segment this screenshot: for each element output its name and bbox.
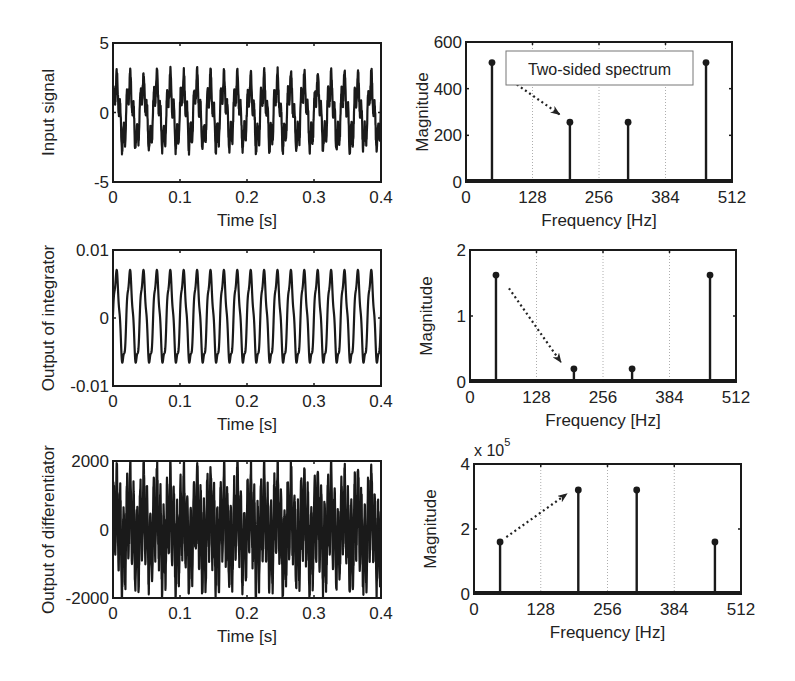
y-tick-label: 200 — [434, 126, 462, 145]
x-tick-label: 0.1 — [168, 188, 192, 207]
stem-marker — [629, 365, 636, 372]
exponent-power: 5 — [504, 436, 510, 448]
y-exponent-label: x 105 — [474, 436, 510, 459]
stem-marker — [567, 119, 574, 126]
y-tick-label: 2000 — [71, 452, 109, 471]
x-tick-label: 384 — [651, 188, 679, 207]
y-tick-label: 5 — [100, 34, 109, 53]
annotation-arrow — [509, 288, 561, 362]
panel-integrator-spectrum: 0128256384512012Frequency [Hz]Magnitude — [417, 241, 750, 430]
stem-marker — [497, 539, 504, 546]
y-tick-label: 0 — [461, 585, 470, 604]
x-tick-label: 0 — [465, 388, 474, 407]
axes-frame — [474, 464, 741, 594]
x-tick-label: 512 — [727, 600, 755, 619]
y-tick-label: 2 — [457, 241, 466, 260]
x-axis-label: Time [s] — [217, 415, 277, 434]
x-tick-label: 0.2 — [235, 188, 259, 207]
y-axis-label: Magnitude — [413, 72, 432, 151]
x-axis-label: Frequency [Hz] — [541, 211, 656, 230]
y-tick-label: 4 — [461, 455, 470, 474]
x-tick-label: 512 — [718, 188, 746, 207]
y-tick-label: 600 — [434, 33, 462, 52]
x-tick-label: 256 — [593, 600, 621, 619]
y-axis-label: Magnitude — [421, 489, 440, 568]
y-axis-label: Output of integrator — [39, 244, 58, 391]
y-tick-label: 400 — [434, 80, 462, 99]
x-tick-label: 0.3 — [302, 188, 326, 207]
x-tick-label: 0 — [108, 188, 117, 207]
y-axis-label: Magnitude — [417, 276, 436, 355]
x-tick-label: 0.4 — [369, 392, 393, 411]
exponent-base: x 10 — [474, 442, 504, 459]
x-tick-label: 256 — [585, 188, 613, 207]
stem-marker — [707, 272, 714, 279]
y-tick-label: 2 — [461, 520, 470, 539]
figure: 00.10.20.30.4-505Time [s]Input signalTwo… — [0, 0, 795, 681]
panel-differentiator-spectrum: 0128256384512024Frequency [Hz]Magnitudex… — [421, 436, 755, 642]
y-tick-label: 0 — [100, 104, 109, 123]
signal-line — [113, 270, 381, 363]
x-tick-label: 0.1 — [168, 392, 192, 411]
y-axis-label: Output of differentiator — [39, 445, 58, 614]
y-tick-label: 0 — [453, 173, 462, 192]
panel-input-time: 00.10.20.30.4-505Time [s]Input signal — [39, 34, 393, 230]
panel-integrator-time: 00.10.20.30.4-0.0100.01Time [s]Output of… — [39, 241, 393, 434]
x-axis-label: Frequency [Hz] — [550, 623, 665, 642]
y-tick-label: -2000 — [66, 589, 109, 608]
x-axis-label: Time [s] — [217, 627, 277, 646]
x-tick-label: 512 — [722, 388, 750, 407]
y-tick-label: 0 — [100, 309, 109, 328]
x-tick-label: 0 — [461, 188, 470, 207]
x-tick-label: 0 — [108, 392, 117, 411]
x-tick-label: 128 — [527, 600, 555, 619]
figure-canvas: 00.10.20.30.4-505Time [s]Input signalTwo… — [0, 0, 795, 681]
x-tick-label: 0.4 — [369, 604, 393, 623]
x-tick-label: 0.2 — [235, 392, 259, 411]
x-tick-label: 384 — [655, 388, 683, 407]
panel-input-spectrum: Two-sided spectrum0128256384512020040060… — [413, 33, 746, 230]
x-tick-label: 0.3 — [302, 392, 326, 411]
x-tick-label: 0.2 — [235, 604, 259, 623]
signal-line — [113, 67, 381, 155]
stem-marker — [633, 487, 640, 494]
x-tick-label: 256 — [589, 388, 617, 407]
x-tick-label: 0 — [108, 604, 117, 623]
y-tick-label: 0 — [100, 521, 109, 540]
stem-marker — [712, 539, 719, 546]
stem-marker — [571, 365, 578, 372]
stem-marker — [575, 487, 582, 494]
stem-marker — [625, 119, 632, 126]
x-axis-label: Time [s] — [217, 211, 277, 230]
x-tick-label: 0 — [469, 600, 478, 619]
stem-marker — [489, 59, 496, 66]
x-tick-label: 0.1 — [168, 604, 192, 623]
annotation-text: Two-sided spectrum — [528, 61, 671, 78]
y-tick-label: 0.01 — [76, 241, 109, 260]
signal-line — [113, 455, 381, 600]
annotation-arrow — [506, 494, 566, 537]
x-tick-label: 384 — [660, 600, 688, 619]
x-tick-label: 0.4 — [369, 188, 393, 207]
stem-marker — [493, 272, 500, 279]
annotation-arrow — [513, 82, 560, 115]
y-tick-label: -5 — [94, 173, 109, 192]
y-tick-label: 1 — [457, 307, 466, 326]
y-axis-label: Input signal — [39, 69, 58, 156]
y-tick-label: -0.01 — [70, 377, 109, 396]
x-tick-label: 0.3 — [302, 604, 326, 623]
x-tick-label: 128 — [522, 388, 550, 407]
panel-differentiator-time: 00.10.20.30.4-200002000Time [s]Output of… — [39, 445, 393, 646]
x-tick-label: 128 — [518, 188, 546, 207]
y-tick-label: 0 — [457, 373, 466, 392]
stem-marker — [703, 59, 710, 66]
x-axis-label: Frequency [Hz] — [545, 411, 660, 430]
